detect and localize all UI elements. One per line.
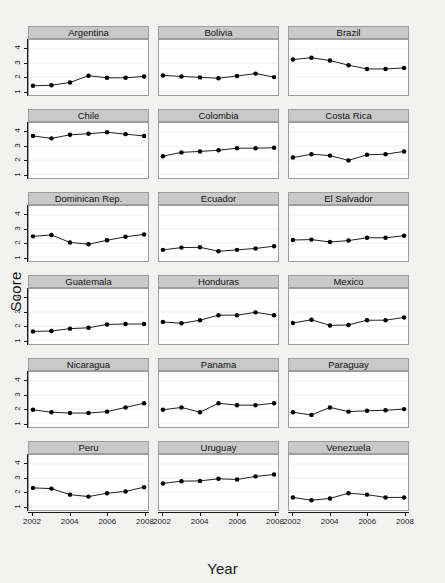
panel-plot-area: [28, 205, 149, 262]
y-tick-mark: [24, 229, 27, 230]
x-tick-label: 2006: [224, 517, 250, 526]
y-tick-label: 2: [12, 72, 22, 81]
panel-strip-label: Panama: [158, 358, 279, 371]
panel-strip-label: Brazil: [288, 26, 409, 39]
y-tick-label: 1: [12, 87, 22, 96]
x-axis-line: [28, 512, 149, 513]
y-tick-label: 3: [12, 141, 22, 150]
x-axis-title-text: Year: [207, 560, 237, 577]
x-tick-mark: [275, 513, 276, 516]
y-axis-line: [27, 205, 28, 262]
y-tick-label: 4: [12, 292, 22, 301]
panel-grid: Argentina1234BoliviaBrazilChile1234Colom…: [28, 26, 440, 536]
x-tick-label: 2006: [354, 517, 380, 526]
panel-plot-area: [288, 371, 409, 428]
y-tick-label: 4: [12, 209, 22, 218]
y-tick-label: 4: [12, 126, 22, 135]
panel-paraguay: Paraguay: [288, 358, 409, 428]
y-tick-label: 1: [12, 502, 22, 511]
panel-strip-label: Dominican Rep.: [28, 192, 149, 205]
panel-plot-area: [288, 454, 409, 511]
x-tick-label: 2006: [94, 517, 120, 526]
panel-guatemala: Guatemala1234: [28, 275, 149, 345]
y-tick-label: 4: [12, 43, 22, 52]
y-tick-label: 1: [12, 170, 22, 179]
y-tick-mark: [24, 409, 27, 410]
y-axis-line: [27, 39, 28, 96]
y-tick-mark: [24, 214, 27, 215]
panel-plot-area: [158, 371, 279, 428]
x-tick-label: 2008: [392, 517, 418, 526]
y-tick-mark: [24, 507, 27, 508]
x-axis-line: [158, 512, 279, 513]
x-tick-mark: [145, 513, 146, 516]
panel-brazil: Brazil: [288, 26, 409, 96]
panel-strip-label: Venezuela: [288, 441, 409, 454]
y-tick-mark: [24, 478, 27, 479]
panel-plot-area: [288, 288, 409, 345]
y-tick-label: 3: [12, 473, 22, 482]
panel-dominican-rep: Dominican Rep.1234: [28, 192, 149, 262]
y-tick-label: 1: [12, 253, 22, 262]
panel-el-salvador: El Salvador: [288, 192, 409, 262]
panel-strip-label: Paraguay: [288, 358, 409, 371]
x-tick-mark: [162, 513, 163, 516]
y-axis-line: [27, 454, 28, 511]
y-tick-mark: [24, 424, 27, 425]
panel-honduras: Honduras: [158, 275, 279, 345]
y-tick-mark: [24, 175, 27, 176]
x-tick-mark: [32, 513, 33, 516]
y-tick-label: 1: [12, 419, 22, 428]
panel-strip-label: El Salvador: [288, 192, 409, 205]
panel-colombia: Colombia: [158, 109, 279, 179]
panel-plot-area: [158, 205, 279, 262]
panel-plot-area: [288, 39, 409, 96]
x-tick-mark: [292, 513, 293, 516]
x-axis-title: Year: [0, 560, 445, 577]
panel-venezuela: Venezuela2002200420062008: [288, 441, 409, 511]
y-tick-mark: [24, 63, 27, 64]
panel-peru: Peru12342002200420062008: [28, 441, 149, 511]
x-tick-mark: [237, 513, 238, 516]
x-axis-line: [288, 512, 409, 513]
panel-plot-area: [288, 205, 409, 262]
y-tick-label: 3: [12, 58, 22, 67]
panel-plot-area: [28, 371, 149, 428]
panel-bolivia: Bolivia: [158, 26, 279, 96]
y-axis-line: [27, 371, 28, 428]
panel-strip-label: Chile: [28, 109, 149, 122]
panel-plot-area: [158, 288, 279, 345]
panel-strip-label: Colombia: [158, 109, 279, 122]
y-tick-label: 2: [12, 238, 22, 247]
y-tick-mark: [24, 341, 27, 342]
y-tick-mark: [24, 463, 27, 464]
panel-strip-label: Argentina: [28, 26, 149, 39]
y-tick-label: 3: [12, 390, 22, 399]
panel-plot-area: [28, 122, 149, 179]
panel-plot-area: [158, 122, 279, 179]
y-tick-label: 3: [12, 307, 22, 316]
panel-uruguay: Uruguay2002200420062008: [158, 441, 279, 511]
y-tick-label: 2: [12, 487, 22, 496]
panel-strip-label: Honduras: [158, 275, 279, 288]
x-tick-mark: [70, 513, 71, 516]
panel-ecuador: Ecuador: [158, 192, 279, 262]
panel-argentina: Argentina1234: [28, 26, 149, 96]
y-tick-mark: [24, 92, 27, 93]
trellis-chart-figure: Score Argentina1234BoliviaBrazilChile123…: [0, 0, 445, 583]
panel-strip-label: Mexico: [288, 275, 409, 288]
x-tick-label: 2002: [19, 517, 45, 526]
panel-strip-label: Costa Rica: [288, 109, 409, 122]
y-axis-line: [27, 288, 28, 345]
y-tick-label: 4: [12, 458, 22, 467]
panel-strip-label: Bolivia: [158, 26, 279, 39]
x-tick-mark: [330, 513, 331, 516]
y-tick-mark: [24, 243, 27, 244]
panel-strip-label: Nicaragua: [28, 358, 149, 371]
panel-mexico: Mexico: [288, 275, 409, 345]
y-axis-line: [27, 122, 28, 179]
x-tick-label: 2004: [187, 517, 213, 526]
panel-plot-area: [28, 288, 149, 345]
y-tick-mark: [24, 297, 27, 298]
panel-plot-area: [28, 39, 149, 96]
